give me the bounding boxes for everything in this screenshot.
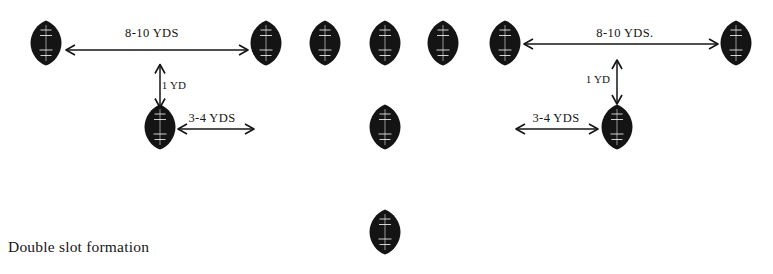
diagram-caption: Double slot formation <box>8 238 149 256</box>
dim-inside-right: 3-4 YDS <box>532 111 579 126</box>
formation-diagram: 8-10 YDS8-10 YDS.1 YD1 YD3-4 YDS3-4 YDS … <box>0 0 773 274</box>
dim-inside-left: 3-4 YDS <box>188 111 235 126</box>
dim-split-left: 8-10 YDS <box>125 26 179 41</box>
dim-split-right: 8-10 YDS. <box>596 26 653 41</box>
dim-depth-left: 1 YD <box>162 79 187 91</box>
player-fullback <box>367 208 403 256</box>
player-left-guard <box>307 19 343 67</box>
player-quarterback <box>367 103 403 151</box>
dim-depth-right: 1 YD <box>586 73 611 85</box>
player-right-guard <box>425 19 461 67</box>
player-center <box>367 19 403 67</box>
